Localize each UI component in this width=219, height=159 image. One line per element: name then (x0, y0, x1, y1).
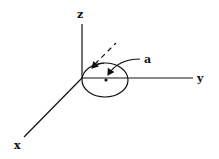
dashed-axis-line (95, 43, 116, 64)
pointer-arrow (108, 59, 140, 75)
diagram-canvas: z y x a (0, 0, 219, 159)
x-axis (24, 78, 82, 137)
y-axis-label: y (196, 72, 204, 85)
annotation-label-a: a (144, 53, 151, 66)
center-dot (104, 78, 107, 81)
z-axis-label: z (77, 8, 83, 21)
x-axis-label: x (14, 139, 21, 152)
axes-diagram: z y x a (0, 0, 219, 159)
